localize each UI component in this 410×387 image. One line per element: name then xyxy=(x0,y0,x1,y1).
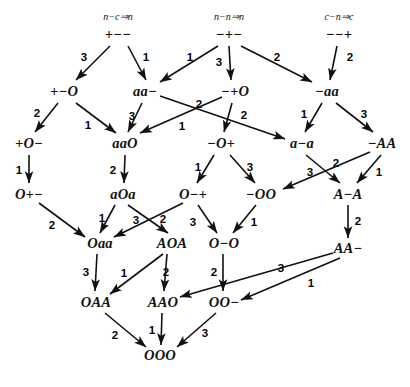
edge-weight-label: 1 xyxy=(143,51,149,63)
edge-weight-label: 2 xyxy=(163,266,169,278)
edge-weight-label: 2 xyxy=(49,219,55,231)
edge-weight-label: 1 xyxy=(376,166,382,178)
rewrite-rule-label: n−n⇒n xyxy=(214,11,244,22)
graph-edge xyxy=(283,152,370,189)
edge-weight-label: 2 xyxy=(211,266,217,278)
edge-weight-label: 2 xyxy=(112,329,118,341)
edge-weight-label: 2 xyxy=(34,107,40,119)
graph-node-n-ama: a−a xyxy=(290,135,314,152)
graph-node-n-aaO: aaO xyxy=(112,135,138,152)
edge-weight-label: 3 xyxy=(81,51,87,63)
graph-node-n-pmm: +−− xyxy=(105,26,131,43)
edge-weight-label: 2 xyxy=(160,213,166,225)
graph-node-n-OmO: O−O xyxy=(209,235,239,252)
edge-weight-label: 2 xyxy=(355,215,361,227)
graph-node-n-AAO: AAO xyxy=(148,294,178,311)
graph-edge xyxy=(114,203,183,237)
graph-edge xyxy=(198,205,217,233)
edge-weight-label: 3 xyxy=(129,110,135,122)
graph-edge xyxy=(161,313,162,345)
edge-weight-label: 3 xyxy=(202,327,208,339)
rewrite-rule-label: c−n⇒c xyxy=(324,11,353,22)
graph-edge xyxy=(39,203,85,237)
edge-weight-label: 1 xyxy=(308,277,314,289)
edge-weight-label: 1 xyxy=(16,164,22,176)
graph-node-n-mmp: −−+ xyxy=(326,26,352,43)
edge-weight-label: 1 xyxy=(301,108,307,120)
edge-weight-label: 3 xyxy=(361,108,367,120)
graph-edge xyxy=(177,313,216,347)
edge-weight-label: 3 xyxy=(190,216,196,228)
edge-weight-label: 1 xyxy=(195,161,201,173)
graph-edge xyxy=(224,103,232,132)
edge-weight-label: 1 xyxy=(85,119,91,131)
graph-node-n-pmO: +−O xyxy=(50,83,78,100)
graph-node-n-Oaa: Oaa xyxy=(87,235,113,252)
edge-weight-label: 1 xyxy=(179,120,185,132)
graph-node-n-mOp: −O+ xyxy=(207,135,235,152)
edge-weight-label: 3 xyxy=(83,266,89,278)
graph-edge xyxy=(124,155,125,183)
graph-node-n-AmA: A−A xyxy=(334,186,363,203)
graph-edge xyxy=(160,96,285,139)
derivation-graph-figure: n−c⇒nn−n⇒nc−n⇒c+−−−+−−−++−Oaa−−+O−aa+O−a… xyxy=(0,0,410,387)
graph-node-n-maa: −aa xyxy=(315,83,339,100)
graph-node-n-Opm: O+− xyxy=(15,186,43,203)
edge-weight-label: 2 xyxy=(347,51,353,63)
graph-node-n-AOA: AOA xyxy=(157,235,187,252)
edge-weight-label: 1 xyxy=(251,216,257,228)
graph-node-n-AAm: AA− xyxy=(334,240,363,257)
edge-weight-label: 2 xyxy=(274,51,280,63)
edge-weight-label: 1 xyxy=(121,267,127,279)
edge-weight-label: 1 xyxy=(187,51,193,63)
graph-edge xyxy=(241,258,340,300)
graph-edge xyxy=(110,254,163,294)
graph-node-n-mpO: −+O xyxy=(221,83,249,100)
graph-edge xyxy=(305,103,322,132)
edge-weight-label: 1 xyxy=(149,324,155,336)
rewrite-rule-label: n−c⇒n xyxy=(103,11,133,22)
graph-node-n-mpm: −+− xyxy=(216,26,242,43)
graph-edge xyxy=(336,103,373,132)
graph-node-n-mOO: −OO xyxy=(246,186,276,203)
graph-node-n-OOm: OO− xyxy=(209,294,239,311)
edge-weight-label: 2 xyxy=(196,98,202,110)
graph-edge xyxy=(229,46,231,80)
graph-node-n-aOa: aOa xyxy=(110,186,136,203)
graph-edge xyxy=(180,253,333,297)
edge-weight-label: 3 xyxy=(216,56,222,68)
edge-weight-label: 3 xyxy=(307,166,313,178)
graph-node-n-aam: aa− xyxy=(133,83,157,100)
graph-node-n-pOm: +O− xyxy=(15,135,43,152)
graph-node-n-OAA: OAA xyxy=(81,294,111,311)
graph-edge xyxy=(76,103,116,133)
graph-node-n-mAA: −AA xyxy=(368,135,397,152)
edge-weight-label: 3 xyxy=(133,214,139,226)
edge-weight-label: 1 xyxy=(99,212,105,224)
graph-edge xyxy=(330,46,337,80)
edge-weight-label: 2 xyxy=(110,164,116,176)
edge-weight-label: 3 xyxy=(278,262,284,274)
graph-edge xyxy=(95,254,97,291)
edge-weight-label: 2 xyxy=(333,157,339,169)
edge-weight-label: 2 xyxy=(241,109,247,121)
edge-weight-label: 3 xyxy=(247,161,253,173)
graph-node-n-Omp: O−+ xyxy=(179,186,207,203)
graph-node-n-OOO: OOO xyxy=(144,347,176,364)
